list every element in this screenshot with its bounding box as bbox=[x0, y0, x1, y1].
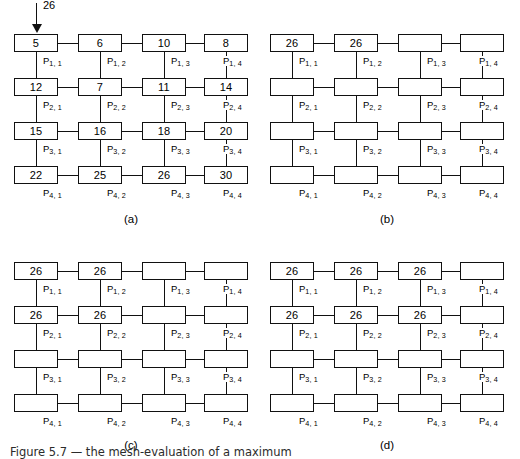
processor-label-subscript: 1, 3 bbox=[433, 59, 445, 68]
processor-box bbox=[270, 78, 314, 96]
processor-box: 15 bbox=[14, 122, 58, 140]
processor-label-subscript: 2, 1 bbox=[305, 331, 317, 340]
link-horizontal bbox=[122, 175, 142, 176]
link-vertical bbox=[420, 368, 421, 394]
processor-label: P2, 3 bbox=[426, 328, 447, 338]
processor-box bbox=[460, 262, 504, 280]
processor-box: 26 bbox=[270, 34, 314, 52]
processor-value: 12 bbox=[30, 81, 43, 92]
processor-label-subscript: 2, 1 bbox=[49, 331, 61, 340]
processor-label-subscript: 4, 1 bbox=[305, 419, 317, 428]
processor-label: P4, 2 bbox=[362, 188, 383, 198]
link-horizontal bbox=[58, 315, 78, 316]
processor-box: 26 bbox=[142, 166, 186, 184]
processor-value: 8 bbox=[223, 37, 229, 48]
processor-box bbox=[334, 78, 378, 96]
link-vertical bbox=[420, 140, 421, 166]
processor-value: 26 bbox=[414, 309, 427, 320]
processor-label-subscript: 4, 4 bbox=[485, 191, 497, 200]
processor-value: 16 bbox=[94, 125, 107, 136]
processor-label-subscript: 4, 4 bbox=[485, 419, 497, 428]
link-horizontal bbox=[58, 43, 78, 44]
processor-label: P1, 1 bbox=[42, 56, 63, 66]
processor-box: 10 bbox=[142, 34, 186, 52]
processor-label-subscript: 3, 3 bbox=[177, 375, 189, 384]
processor-label: P1, 4 bbox=[222, 284, 243, 294]
panel-caption-d: (d) bbox=[262, 440, 512, 452]
link-horizontal bbox=[442, 403, 460, 404]
link-vertical bbox=[292, 324, 293, 350]
processor-label-subscript: 1, 1 bbox=[49, 287, 61, 296]
processor-value: 26 bbox=[414, 265, 427, 276]
processor-label: P3, 2 bbox=[106, 372, 127, 382]
processor-box: 26 bbox=[334, 306, 378, 324]
link-horizontal bbox=[314, 315, 334, 316]
link-horizontal bbox=[378, 271, 398, 272]
link-vertical bbox=[164, 368, 165, 394]
processor-value: 15 bbox=[30, 125, 43, 136]
link-horizontal bbox=[186, 359, 204, 360]
processor-label: P3, 4 bbox=[222, 144, 243, 154]
processor-label-subscript: 2, 3 bbox=[433, 331, 445, 340]
processor-box: 22 bbox=[14, 166, 58, 184]
panel-caption-a: (a) bbox=[6, 214, 256, 226]
processor-label: P3, 1 bbox=[42, 144, 63, 154]
processor-label: P3, 4 bbox=[478, 144, 499, 154]
processor-box: 26 bbox=[14, 306, 58, 324]
link-horizontal bbox=[442, 315, 460, 316]
processor-label-subscript: 4, 3 bbox=[177, 419, 189, 428]
link-horizontal bbox=[58, 175, 78, 176]
processor-box bbox=[78, 394, 122, 412]
panel-c: 26P1, 126P1, 2P1, 3P1, 426P2, 126P2, 2P2… bbox=[6, 228, 256, 456]
link-vertical bbox=[292, 280, 293, 306]
processor-value: 26 bbox=[286, 265, 299, 276]
link-vertical bbox=[420, 52, 421, 78]
processor-box: 18 bbox=[142, 122, 186, 140]
processor-label: P4, 1 bbox=[298, 416, 319, 426]
link-horizontal bbox=[442, 359, 460, 360]
processor-value: 18 bbox=[158, 125, 171, 136]
processor-label: P2, 1 bbox=[42, 100, 63, 110]
processor-label-subscript: 3, 3 bbox=[177, 147, 189, 156]
processor-label: P1, 4 bbox=[222, 56, 243, 66]
processor-box bbox=[460, 394, 504, 412]
processor-value: 26 bbox=[350, 265, 363, 276]
processor-box bbox=[14, 394, 58, 412]
link-horizontal bbox=[378, 43, 398, 44]
processor-label: P2, 1 bbox=[42, 328, 63, 338]
link-horizontal bbox=[186, 271, 204, 272]
link-horizontal bbox=[378, 359, 398, 360]
processor-box: 26 bbox=[78, 262, 122, 280]
processor-label-subscript: 2, 1 bbox=[49, 103, 61, 112]
link-horizontal bbox=[378, 175, 398, 176]
processor-grid: 26P1, 126P1, 2P1, 3P1, 426P2, 126P2, 2P2… bbox=[6, 228, 256, 428]
processor-label: P2, 3 bbox=[170, 100, 191, 110]
processor-label: P4, 3 bbox=[170, 188, 191, 198]
processor-label-subscript: 3, 4 bbox=[229, 375, 241, 384]
processor-label-subscript: 1, 2 bbox=[113, 287, 125, 296]
link-vertical bbox=[164, 280, 165, 306]
link-horizontal bbox=[442, 87, 460, 88]
link-vertical bbox=[164, 96, 165, 122]
processor-box bbox=[398, 122, 442, 140]
link-horizontal bbox=[122, 315, 142, 316]
processor-box: 5 bbox=[14, 34, 58, 52]
panel-caption-b: (b) bbox=[262, 214, 512, 226]
link-horizontal bbox=[186, 175, 204, 176]
processor-value: 5 bbox=[33, 37, 39, 48]
processor-box bbox=[142, 350, 186, 368]
processor-label: P2, 2 bbox=[362, 100, 383, 110]
link-vertical bbox=[292, 368, 293, 394]
processor-box: 6 bbox=[78, 34, 122, 52]
processor-label: P1, 1 bbox=[42, 284, 63, 294]
panel-b: 26P1, 126P1, 2P1, 3P1, 4P2, 1P2, 2P2, 3P… bbox=[262, 0, 512, 228]
link-vertical bbox=[356, 52, 357, 78]
processor-grid: 5P1, 16P1, 210P1, 38P1, 412P2, 17P2, 211… bbox=[6, 0, 256, 200]
processor-box: 20 bbox=[204, 122, 248, 140]
processor-box: 26 bbox=[398, 262, 442, 280]
processor-label: P1, 3 bbox=[426, 284, 447, 294]
processor-box bbox=[460, 34, 504, 52]
link-vertical bbox=[356, 324, 357, 350]
link-vertical bbox=[292, 140, 293, 166]
